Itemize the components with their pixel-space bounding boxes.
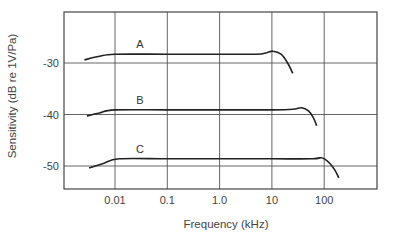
x-tick-label: 0.1 — [160, 194, 175, 206]
curve-label-c: C — [136, 143, 144, 155]
curve-c — [89, 158, 339, 178]
plot-frame — [64, 12, 377, 189]
x-axis-label: Frequency (kHz) — [184, 218, 269, 230]
curve-b — [87, 108, 317, 126]
x-tick-label: 1.0 — [212, 194, 227, 206]
y-tick-label: -40 — [43, 109, 59, 121]
x-tick-labels: 0.010.11.010100 — [104, 194, 333, 206]
x-tick-label: 10 — [266, 194, 278, 206]
x-tick-label: 100 — [315, 194, 333, 206]
curve-label-a: A — [136, 38, 144, 50]
y-axis-label: Sensitivity (dB re 1V/Pa) — [6, 34, 18, 159]
grid-lines — [64, 12, 377, 189]
curve-a — [84, 51, 292, 73]
y-tick-label: -30 — [43, 57, 59, 69]
y-tick-labels: -30-40-50 — [43, 57, 59, 172]
sensitivity-chart: ABC 0.010.11.010100 -30-40-50 Frequency … — [0, 0, 397, 240]
y-tick-label: -50 — [43, 160, 59, 172]
curve-label-b: B — [136, 94, 143, 106]
x-tick-label: 0.01 — [104, 194, 125, 206]
curves: ABC — [84, 38, 338, 178]
